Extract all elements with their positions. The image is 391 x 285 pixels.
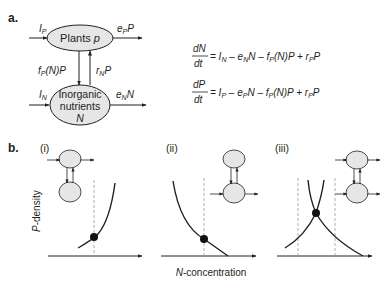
- flow-ip-label: IP: [39, 23, 47, 35]
- svg-text:dP: dP: [193, 79, 206, 90]
- mini-nutrient-node: [59, 182, 81, 202]
- panel-a: a. Plants p Inorganic nutrients N IP ePP…: [8, 11, 321, 125]
- equilibrium-point: [312, 209, 320, 217]
- nutrients-var: N: [76, 112, 84, 124]
- equation-dn-rhs: = IN – eNN – fP(N)P + rPP: [210, 51, 321, 63]
- flow-uptake-label: fP(N)P: [38, 65, 66, 77]
- figure: a. Plants p Inorganic nutrients N IP ePP…: [0, 0, 391, 285]
- flow-enn-label: eNN: [116, 89, 135, 101]
- panel-b-label: b.: [8, 141, 19, 155]
- nutrients-line2: nutrients: [60, 100, 100, 112]
- panel-a-label: a.: [8, 11, 18, 25]
- flow-recycle-label: rNP: [96, 65, 111, 77]
- mini-plant-node: [346, 151, 368, 169]
- subpanel-ii-label: (ii): [166, 142, 178, 154]
- mini-nutrient-node: [346, 183, 368, 203]
- flow-in-label: IN: [39, 89, 48, 101]
- subpanel-i: (i): [40, 142, 142, 256]
- curve-decreasing: [173, 181, 228, 256]
- mini-nutrient-node: [223, 183, 245, 203]
- mini-plant-node: [59, 150, 81, 168]
- subpanel-iii: (iii): [275, 142, 380, 256]
- equilibrium-point: [90, 233, 98, 241]
- y-axis-label: P-density: [31, 190, 42, 232]
- subpanel-i-label: (i): [40, 142, 49, 154]
- equation-dp: dP dt = IP – ePN – fP(N)P + rPP: [192, 79, 320, 105]
- svg-text:dt: dt: [194, 58, 204, 69]
- nutrients-line1: Inorganic: [58, 88, 101, 100]
- x-axis-label: N-concentration: [176, 267, 247, 278]
- svg-text:dN: dN: [193, 43, 207, 54]
- subpanel-iii-label: (iii): [275, 142, 289, 154]
- equation-dn: dN dt = IN – eNN – fP(N)P + rPP: [192, 43, 321, 69]
- plants-node-label: Plants p: [60, 32, 100, 44]
- equilibrium-point: [200, 235, 208, 243]
- flow-epp-label: ePP: [117, 23, 134, 35]
- panel-b: b. P-density N-concentration (i) (ii): [8, 141, 380, 278]
- mini-plant-node: [223, 150, 245, 168]
- equation-dp-rhs: = IP – ePN – fP(N)P + rPP: [210, 87, 320, 99]
- svg-text:dt: dt: [194, 94, 204, 105]
- subpanel-ii: (ii): [161, 142, 258, 256]
